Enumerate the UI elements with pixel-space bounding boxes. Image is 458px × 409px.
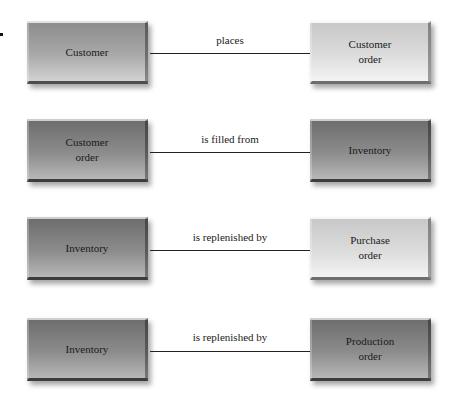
relationship-row-1: Customer places Customer order	[0, 21, 458, 91]
entity-label: Production order	[346, 334, 394, 364]
relationship-label: is replenished by	[150, 231, 310, 243]
relationship-row-4: Inventory is replenished by Production o…	[0, 318, 458, 388]
entity-customer: Customer	[27, 21, 148, 84]
connector-line	[150, 250, 310, 251]
entity-inventory: Inventory	[27, 217, 148, 280]
relationship-label: is filled from	[150, 133, 310, 145]
entity-customer-order: Customer order	[27, 119, 148, 182]
entity-label: Inventory	[66, 241, 109, 256]
entity-label: Purchase order	[350, 233, 390, 263]
entity-production-order: Production order	[310, 318, 431, 381]
relationship-row-2: Customer order is filled from Inventory	[0, 119, 458, 189]
entity-label: Customer	[66, 45, 109, 60]
entity-label: Customer order	[349, 37, 392, 67]
entity-customer-order: Customer order	[310, 21, 431, 84]
relationship-label: is replenished by	[150, 331, 310, 343]
relationship-label: places	[150, 34, 310, 46]
entity-inventory: Inventory	[27, 318, 148, 381]
connector-line	[150, 351, 310, 352]
entity-label: Inventory	[349, 143, 392, 158]
entity-purchase-order: Purchase order	[310, 217, 431, 280]
entity-label: Customer order	[66, 135, 109, 165]
relationship-row-3: Inventory is replenished by Purchase ord…	[0, 217, 458, 287]
connector-line	[150, 53, 310, 54]
connector-line	[150, 152, 310, 153]
entity-label: Inventory	[66, 342, 109, 357]
entity-inventory: Inventory	[310, 119, 431, 182]
